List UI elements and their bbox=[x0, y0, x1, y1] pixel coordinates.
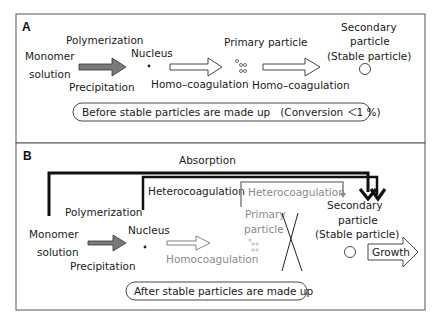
b-caption: After stable particles are made up bbox=[134, 285, 313, 297]
b-polymerization-label: Polymerization bbox=[65, 206, 143, 218]
a-polymerization-label: Polymerization bbox=[66, 34, 144, 46]
panel-b-letter: B bbox=[23, 149, 32, 163]
b-nucleus-dot bbox=[144, 246, 147, 249]
b-growth-label: Growth bbox=[372, 246, 410, 258]
b-absorption-label: Absorption bbox=[179, 154, 236, 166]
a-monomer-label: Monomer bbox=[25, 50, 75, 62]
b-heterocoag-label-gray: Heterocoagulation bbox=[248, 186, 345, 198]
b-secondary-label-2: particle bbox=[338, 214, 378, 226]
panel-a-letter: A bbox=[22, 20, 31, 34]
b-secondary-label-3: (Stable particle) bbox=[315, 228, 399, 240]
a-primary-particle-label: Primary particle bbox=[224, 36, 308, 48]
a-nucleus-dot bbox=[148, 65, 151, 68]
a-secondary-particle-circle bbox=[360, 64, 371, 75]
a-homocoag-label-2: Homo–coagulation bbox=[252, 79, 350, 91]
diagram-canvas: A Polymerization Monomer solution Precip… bbox=[0, 0, 439, 324]
a-homocoag-label-1: Homo–coagulation bbox=[151, 78, 249, 90]
a-secondary-label-3: (Stable particle) bbox=[327, 50, 411, 62]
b-precipitation-label: Precipitation bbox=[70, 260, 136, 272]
a-solution-label: solution bbox=[29, 68, 71, 80]
b-homocoag-label: Homocoagulation bbox=[166, 253, 258, 265]
b-solution-label: solution bbox=[37, 246, 79, 258]
b-primary-label-1: Primary bbox=[245, 208, 286, 220]
b-primary-label-2: particle bbox=[244, 223, 284, 235]
a-secondary-label-2: particle bbox=[350, 35, 390, 47]
b-nucleus-label: Nucleus bbox=[128, 224, 170, 236]
a-precipitation-label: Precipitation bbox=[69, 81, 135, 93]
b-secondary-label-1: Secondary bbox=[327, 199, 383, 211]
b-heterocoag-label-dark: Heterocoagulation bbox=[148, 185, 245, 197]
a-caption: Before stable particles are made up (Con… bbox=[82, 106, 381, 118]
a-secondary-label-1: Secondary bbox=[341, 21, 397, 33]
b-secondary-particle-circle bbox=[345, 247, 356, 258]
a-nucleus-label: Nucleus bbox=[131, 47, 173, 59]
b-monomer-label: Monomer bbox=[29, 228, 79, 240]
